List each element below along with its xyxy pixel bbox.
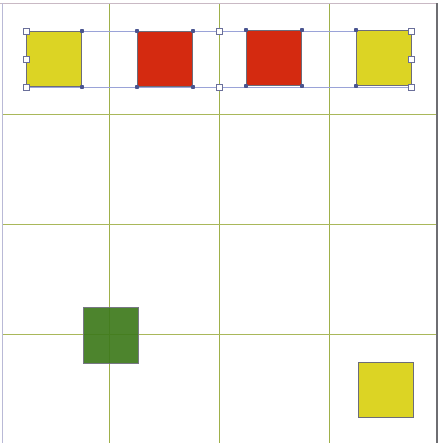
grid-line-horizontal-2 <box>3 224 436 225</box>
red-square-2[interactable] <box>246 30 302 86</box>
resize-handle-n[interactable] <box>216 28 223 35</box>
anchor-point-icon[interactable] <box>354 28 358 32</box>
resize-handle-ne[interactable] <box>408 28 415 35</box>
anchor-point-icon[interactable] <box>244 84 248 88</box>
anchor-point-icon[interactable] <box>80 85 84 89</box>
resize-handle-sw[interactable] <box>23 84 30 91</box>
resize-handle-s[interactable] <box>216 84 223 91</box>
anchor-point-icon[interactable] <box>300 28 304 32</box>
green-square[interactable] <box>83 307 139 364</box>
diagram-canvas <box>0 0 441 443</box>
anchor-point-icon[interactable] <box>135 29 139 33</box>
grid-line-horizontal-1 <box>3 114 436 115</box>
yellow-square-1[interactable] <box>26 31 82 87</box>
anchor-point-icon[interactable] <box>354 84 358 88</box>
grid-line-horizontal-3 <box>3 334 436 335</box>
anchor-point-icon[interactable] <box>300 84 304 88</box>
resize-handle-w[interactable] <box>23 56 30 63</box>
red-square-1[interactable] <box>137 31 193 87</box>
anchor-point-icon[interactable] <box>244 28 248 32</box>
resize-handle-nw[interactable] <box>23 28 30 35</box>
anchor-point-icon[interactable] <box>191 29 195 33</box>
yellow-square-2[interactable] <box>356 30 412 86</box>
anchor-point-icon[interactable] <box>135 85 139 89</box>
anchor-point-icon[interactable] <box>80 29 84 33</box>
yellow-square-3[interactable] <box>358 362 414 418</box>
resize-handle-se[interactable] <box>408 84 415 91</box>
anchor-point-icon[interactable] <box>191 85 195 89</box>
page-border-left <box>2 3 3 443</box>
page-border-right <box>436 3 438 443</box>
resize-handle-e[interactable] <box>408 56 415 63</box>
